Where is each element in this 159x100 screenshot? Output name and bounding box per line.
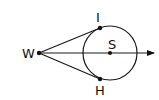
- point-w: [37, 51, 41, 55]
- segment-wh: [39, 53, 100, 79]
- label-h: H: [95, 83, 105, 98]
- segment-wi: [39, 28, 100, 53]
- label-s: S: [108, 37, 116, 52]
- tangent-diagram: W S I H: [0, 0, 159, 100]
- label-w: W: [22, 46, 35, 61]
- point-h: [98, 77, 102, 81]
- label-i: I: [96, 10, 100, 25]
- point-i: [98, 26, 102, 30]
